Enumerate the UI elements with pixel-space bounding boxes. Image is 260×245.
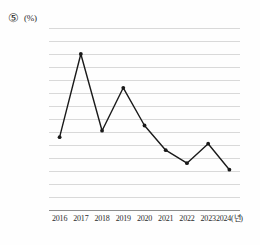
data-point-marker	[121, 86, 125, 90]
x-axis-tick-label: 2016	[52, 214, 67, 223]
line-series	[49, 28, 240, 210]
x-axis-tick-label: 2021	[158, 214, 173, 223]
x-axis-tick-label: 2022	[179, 214, 194, 223]
chart-header: ⑤ (%)	[8, 12, 37, 25]
y-axis-unit-label: (%)	[24, 12, 37, 24]
data-point-marker	[58, 135, 62, 139]
data-point-marker	[206, 142, 210, 146]
data-point-marker	[227, 168, 231, 172]
x-axis-tick-label: 2019	[116, 214, 131, 223]
x-axis-tick-label: 2024(년)	[216, 214, 243, 223]
item-number-label: ⑤	[8, 12, 19, 25]
x-axis-tick-label: 2023	[201, 214, 216, 223]
data-point-marker	[164, 148, 168, 152]
x-axis-tick-label: 2017	[73, 214, 88, 223]
x-axis-tick-label: 2018	[94, 214, 109, 223]
data-point-marker	[143, 124, 147, 128]
series-line	[60, 54, 230, 170]
x-axis-tick-label: 2020	[137, 214, 152, 223]
axis-baseline	[49, 210, 240, 211]
chart-figure: ⑤ (%) 1401301201101009080706050403020100…	[0, 0, 260, 245]
data-point-marker	[100, 129, 104, 133]
data-point-marker	[79, 52, 83, 56]
plot-area: 1401301201101009080706050403020100 20162…	[49, 28, 240, 210]
data-point-marker	[185, 161, 189, 165]
